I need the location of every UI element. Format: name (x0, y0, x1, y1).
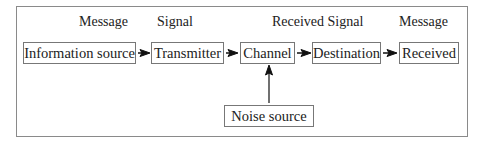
arrow-dest-to-received-icon (383, 50, 397, 57)
arrow-tx-to-channel-icon (226, 50, 238, 57)
arrow-channel-to-dest-icon (297, 50, 311, 57)
connectors (0, 0, 481, 148)
arrow-info-to-tx-icon (138, 50, 150, 57)
arrow-noise-to-channel-icon (266, 65, 273, 103)
